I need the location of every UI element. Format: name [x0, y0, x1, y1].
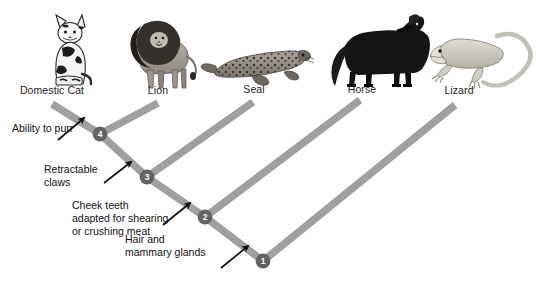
annotation-line: mammary glands [125, 246, 206, 259]
annotation-line: Retractable [44, 163, 98, 176]
cladogram-figure: 4 3 2 1 D [0, 0, 548, 291]
taxon-label-horse: Horse [332, 83, 392, 95]
node-marker-4[interactable]: 4 [93, 127, 108, 142]
node-label-3: 3 [145, 172, 150, 182]
arrow-retractable-claws [104, 162, 131, 183]
branch-seal [147, 102, 253, 177]
node-label-4: 4 [98, 129, 103, 139]
branch-lion [100, 103, 158, 134]
taxon-label-lion: Lion [124, 84, 192, 96]
node-marker-2[interactable]: 2 [198, 210, 213, 225]
annotation-line: claws [44, 176, 98, 189]
annotation-retractable-claws: Retractable claws [44, 163, 98, 189]
tree-branches-layer: 4 3 2 1 [0, 0, 548, 291]
annotation-hair-and-mammary-glands: Hair and mammary glands [125, 233, 206, 259]
annotation-line: Cheek teeth [72, 199, 168, 212]
taxon-label-domestic-cat: Domestic Cat [10, 84, 94, 96]
annotation-line: Ability to purr [12, 122, 73, 135]
taxon-label-lizard: Lizard [428, 84, 490, 96]
node-marker-1[interactable]: 1 [256, 254, 271, 269]
node-label-1: 1 [261, 256, 266, 266]
annotation-line: adapted for shearing [72, 212, 168, 225]
node-marker-3[interactable]: 3 [140, 170, 155, 185]
branch-lizard [263, 105, 455, 261]
annotation-ability-to-purr: Ability to purr [12, 122, 73, 135]
node-label-2: 2 [203, 212, 208, 222]
taxon-label-seal: Seal [225, 83, 283, 95]
annotation-line: Hair and [125, 233, 206, 246]
arrow-hair-and-mammary-glands [221, 246, 248, 268]
branch-node2-node1 [205, 217, 263, 261]
branch-node4-node3 [100, 134, 147, 177]
